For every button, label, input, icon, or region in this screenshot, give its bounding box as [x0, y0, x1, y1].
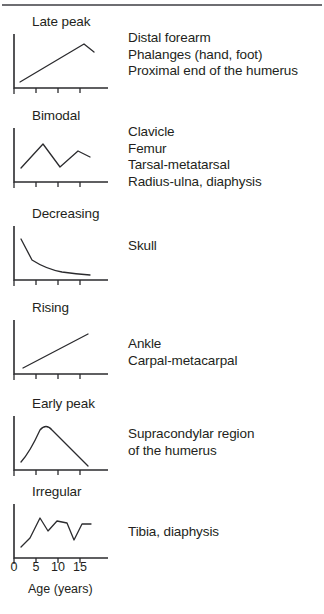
- site-item: Ankle: [128, 336, 324, 353]
- chart-x-ticks: [14, 280, 80, 286]
- sparkline-decreasing: [10, 222, 118, 292]
- series-rising: [23, 334, 88, 368]
- sparkline-late-peak: [10, 30, 118, 100]
- fracture-pattern-figure: Late peak Distal forearm Phalanges (hand…: [0, 0, 324, 614]
- site-item: Clavicle: [128, 124, 324, 141]
- pattern-label-early-peak: Early peak: [32, 396, 95, 411]
- chart-x-ticks: [14, 374, 80, 380]
- site-item: Supracondylar region: [128, 426, 324, 443]
- series-decreasing: [21, 239, 90, 275]
- site-list-early-peak: Supracondylar region of the humerus: [128, 426, 324, 459]
- figure-top-rule: [2, 4, 322, 6]
- pattern-label-decreasing: Decreasing: [32, 206, 99, 221]
- site-item: Distal forearm: [128, 30, 324, 47]
- x-axis-label-group: 0 5 10 15 Age (years): [10, 560, 120, 604]
- site-item: Tibia, diaphysis: [128, 524, 324, 541]
- chart-axes: [14, 416, 108, 470]
- chart-axes: [14, 504, 108, 558]
- site-list-rising: Ankle Carpal-metacarpal: [128, 336, 324, 369]
- site-list-irregular: Tibia, diaphysis: [128, 524, 324, 541]
- sparkline-rising: [10, 316, 118, 386]
- site-list-decreasing: Skull: [128, 238, 324, 255]
- x-tick-label: 15: [73, 560, 87, 574]
- site-list-bimodal: Clavicle Femur Tarsal-metatarsal Radius-…: [128, 124, 324, 190]
- pattern-label-late-peak: Late peak: [32, 14, 90, 29]
- pattern-label-rising: Rising: [32, 300, 69, 315]
- series-early-peak: [21, 427, 88, 467]
- site-list-late-peak: Distal forearm Phalanges (hand, foot) Pr…: [128, 30, 324, 80]
- site-item: Skull: [128, 238, 324, 255]
- pattern-label-bimodal: Bimodal: [32, 108, 80, 123]
- site-item: Tarsal-metatarsal: [128, 157, 324, 174]
- chart-x-ticks: [14, 88, 80, 94]
- x-tick-label: 10: [51, 560, 65, 574]
- sparkline-bimodal: [10, 124, 118, 194]
- chart-axes: [14, 128, 108, 182]
- sparkline-early-peak: [10, 412, 118, 482]
- x-tick-label: 5: [33, 560, 40, 574]
- site-item: Carpal-metacarpal: [128, 353, 324, 370]
- series-bimodal: [21, 144, 90, 168]
- pattern-label-irregular: Irregular: [32, 484, 81, 499]
- x-axis-caption: Age (years): [28, 582, 93, 596]
- site-item: Phalanges (hand, foot): [128, 47, 324, 64]
- site-item: Proximal end of the humerus: [128, 63, 324, 80]
- site-item: of the humerus: [128, 443, 324, 460]
- chart-x-ticks: [14, 470, 80, 476]
- series-irregular: [21, 518, 91, 547]
- site-item: Radius-ulna, diaphysis: [128, 174, 324, 191]
- series-late-peak: [20, 44, 94, 82]
- chart-x-ticks: [14, 182, 80, 188]
- chart-axes: [14, 34, 108, 88]
- site-item: Femur: [128, 141, 324, 158]
- x-tick-label: 0: [11, 560, 18, 574]
